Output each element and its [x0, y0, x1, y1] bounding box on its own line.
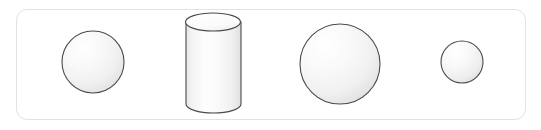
scene-root: [0, 0, 541, 130]
shapes-panel: [16, 9, 526, 120]
